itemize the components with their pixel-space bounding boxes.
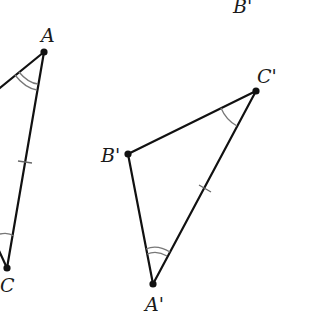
point-c: [3, 264, 10, 271]
segment-b-prime-c-prime: [128, 91, 256, 154]
segment-bc: [0, 240, 7, 268]
label-b-prime: B': [100, 144, 120, 166]
label-c-prime: C': [257, 65, 277, 87]
label-a-prime: A': [143, 293, 164, 315]
label-b-prime-top: B': [232, 0, 252, 17]
angle-mark-a-prime-double: [146, 247, 170, 252]
triangle-a-prime-b-prime-c-prime: B' C' A': [100, 65, 277, 315]
point-b-prime: [124, 150, 131, 157]
label-c: C: [0, 274, 15, 296]
angle-mark-c-prime: [221, 108, 237, 126]
point-c-prime: [252, 87, 259, 94]
label-a: A: [39, 24, 55, 46]
point-a: [40, 48, 47, 55]
segment-b-prime-a-prime: [128, 154, 153, 284]
congruent-triangles-diagram: A C B' B' C' A': [0, 0, 319, 324]
angle-mark-a-prime-double-inner: [147, 252, 167, 256]
point-a-prime: [149, 280, 156, 287]
triangle-abc: A C: [0, 24, 55, 296]
